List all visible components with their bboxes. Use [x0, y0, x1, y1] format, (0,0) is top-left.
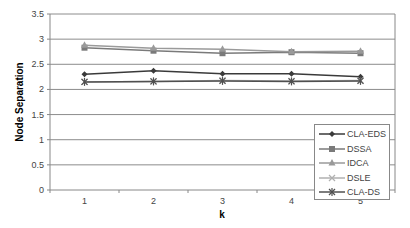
y-tick-label: 1 [39, 135, 44, 145]
x-marker-icon [319, 173, 345, 183]
legend-item-dsle: DSLE [319, 171, 371, 185]
legend-item-cla-eds: CLA-EDS [319, 127, 386, 141]
x-axis-title: k [219, 209, 225, 220]
series-cla-ds [82, 77, 364, 86]
x-tick-label: 1 [82, 196, 87, 206]
triangle-marker-icon [319, 158, 345, 168]
y-axis-title: Node Separation [14, 62, 25, 141]
legend-item-idca: IDCA [319, 156, 369, 170]
y-tick-label: 0.5 [31, 160, 44, 170]
legend-label: CLA-DS [347, 187, 380, 197]
legend-item-dssa: DSSA [319, 142, 372, 156]
square-marker-icon [319, 144, 345, 154]
legend: CLA-EDSDSSAIDCADSLECLA-DS [314, 124, 390, 200]
y-tick-label: 2.5 [31, 59, 44, 69]
legend-label: CLA-EDS [347, 129, 386, 139]
y-tick-label: 1.5 [31, 110, 44, 120]
series-lines [81, 41, 364, 86]
x-tick-label: 3 [220, 196, 225, 206]
x-tick-label: 4 [289, 196, 294, 206]
legend-label: DSSA [347, 144, 372, 154]
x-tick-label: 2 [151, 196, 156, 206]
y-axis-ticks: 00.511.522.533.5 [31, 9, 50, 195]
y-tick-label: 0 [39, 185, 44, 195]
y-tick-label: 3 [39, 34, 44, 44]
diamond-marker-icon [319, 129, 345, 139]
legend-item-cla-ds: CLA-DS [319, 185, 380, 199]
y-tick-label: 3.5 [31, 9, 44, 19]
legend-label: IDCA [347, 158, 369, 168]
y-tick-label: 2 [39, 84, 44, 94]
star-marker-icon [319, 187, 345, 197]
legend-label: DSLE [347, 173, 371, 183]
